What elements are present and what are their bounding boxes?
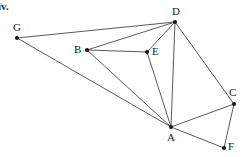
vertex-label-b: B xyxy=(74,44,81,55)
vertex-label-g: G xyxy=(13,22,21,33)
graph-vertex-b xyxy=(85,48,89,52)
vertex-label-f: F xyxy=(228,141,234,152)
vertex-label-e: E xyxy=(152,46,159,57)
graph-vertex-g xyxy=(15,36,19,40)
vertex-label-a: A xyxy=(167,132,175,143)
figure-canvas: iv. GBDEACF xyxy=(0,0,242,157)
graph-vertex-a xyxy=(169,125,173,129)
vertex-label-d: D xyxy=(172,6,180,17)
graph-drawing xyxy=(0,0,242,157)
graph-edges xyxy=(17,22,234,148)
graph-vertex-f xyxy=(222,146,226,150)
graph-edge xyxy=(175,22,234,104)
graph-vertex-c xyxy=(232,102,236,106)
graph-edge xyxy=(171,127,224,148)
graph-edge xyxy=(171,104,234,127)
graph-edge xyxy=(87,50,147,52)
graph-vertex-d xyxy=(173,20,177,24)
vertex-label-c: C xyxy=(229,87,236,98)
graph-vertex-e xyxy=(145,50,149,54)
graph-edge xyxy=(171,22,175,127)
